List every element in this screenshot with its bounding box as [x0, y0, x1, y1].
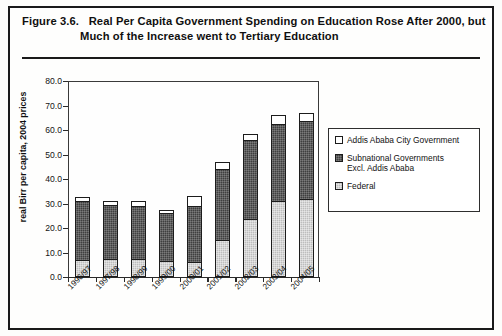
white-swatch [335, 136, 343, 144]
bar-segment-subnational-governments-excl-addis-ababa[interactable] [131, 206, 146, 259]
legend-item[interactable]: Subnational GovernmentsExcl. Addis Ababa [335, 153, 474, 174]
bar-segment-subnational-governments-excl-addis-ababa[interactable] [187, 206, 202, 262]
bar-segment-subnational-governments-excl-addis-ababa[interactable] [243, 140, 258, 220]
legend-label: Addis Ababa City Government [347, 135, 459, 146]
legend-item[interactable]: Federal [335, 181, 474, 192]
figure-title: Figure 3.6. Real Per Capita Government S… [22, 14, 470, 56]
y-axis-tick-label: 60.0 [28, 125, 62, 135]
bar-segment-addis-ababa-city-government[interactable] [271, 115, 286, 124]
legend-label-line-1: Addis Ababa City Government [347, 135, 459, 145]
legend-label: Subnational GovernmentsExcl. Addis Ababa [347, 153, 444, 174]
y-axis-tick-label: 20.0 [28, 223, 62, 233]
stacked-bar[interactable] [215, 162, 230, 277]
bar-segment-subnational-governments-excl-addis-ababa[interactable] [271, 124, 286, 201]
figure-page: Figure 3.6. Real Per Capita Government S… [0, 0, 502, 336]
figure-title-line-1: Real Per Capita Government Spending on E… [89, 15, 486, 27]
legend-label: Federal [347, 181, 375, 192]
y-axis-tick-label: 40.0 [28, 174, 62, 184]
y-axis-tick-label: 30.0 [28, 199, 62, 209]
y-axis-tick-label: 70.0 [28, 101, 62, 111]
y-axis-tick-label: 0.0 [28, 272, 62, 282]
title-divider [22, 57, 480, 59]
figure-title-line-2: Much of the Increase went to Tertiary Ed… [80, 30, 339, 42]
legend-label-line-1: Subnational Governments [347, 153, 444, 163]
y-axis-tick-labels: 0.010.020.030.040.050.060.070.080.0 [26, 0, 62, 336]
bar-segment-addis-ababa-city-government[interactable] [299, 113, 314, 122]
bar-segment-subnational-governments-excl-addis-ababa[interactable] [299, 121, 314, 198]
bar-segment-addis-ababa-city-government[interactable] [187, 196, 202, 206]
chart-legend: Addis Ababa City GovernmentSubnational G… [328, 128, 480, 212]
stacked-bar[interactable] [243, 134, 258, 277]
bar-segment-subnational-governments-excl-addis-ababa[interactable] [75, 201, 90, 260]
dark-swatch [335, 154, 343, 162]
legend-label-line-2: Excl. Addis Ababa [347, 163, 444, 174]
x-axis-tick-mark [319, 277, 320, 282]
bar-segment-subnational-governments-excl-addis-ababa[interactable] [159, 213, 174, 261]
y-axis-tick-label: 10.0 [28, 248, 62, 258]
y-axis-tick-label: 50.0 [28, 150, 62, 160]
y-axis-tick-label: 80.0 [28, 76, 62, 86]
stacked-bar[interactable] [299, 113, 314, 277]
bar-segment-subnational-governments-excl-addis-ababa[interactable] [215, 169, 230, 240]
bar-segment-subnational-governments-excl-addis-ababa[interactable] [103, 205, 118, 259]
stacked-bar[interactable] [271, 115, 286, 277]
bar-segment-addis-ababa-city-government[interactable] [215, 162, 230, 169]
plot-area [68, 81, 319, 277]
light-swatch [335, 182, 343, 190]
legend-label-line-1: Federal [347, 181, 375, 191]
legend-item[interactable]: Addis Ababa City Government [335, 135, 474, 146]
